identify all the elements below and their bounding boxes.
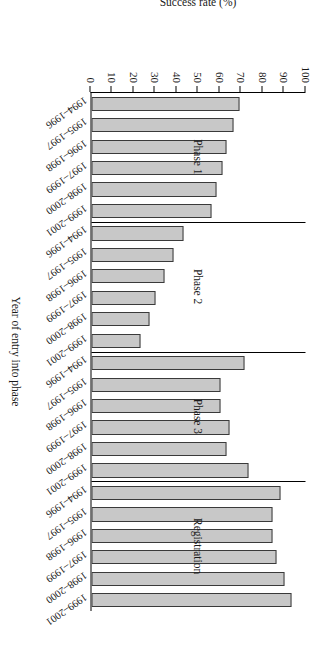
y-axis-tick-label: 0 <box>85 78 96 84</box>
x-axis-tick-label: 1998–2000 <box>12 571 90 585</box>
bar[interactable] <box>91 529 272 543</box>
y-axis-tick-label: 30 <box>149 72 160 83</box>
x-label-group: 1994–19961995–19971996–19981997–19991998… <box>12 352 90 482</box>
bar-group <box>91 93 305 222</box>
bar[interactable] <box>91 463 248 477</box>
x-axis-tick-label: 1994–1996 <box>12 96 90 110</box>
bar[interactable] <box>91 248 173 262</box>
x-axis-tick-label: 1996–1998 <box>12 139 90 153</box>
y-axis-tick-label: 40 <box>171 72 182 83</box>
x-axis-tick-label: 1999–2001 <box>12 593 90 607</box>
y-axis-tick-label: 80 <box>257 72 268 83</box>
bar[interactable] <box>91 486 280 500</box>
x-label-group: 1994–19961995–19971996–19981997–19991998… <box>12 222 90 352</box>
bar[interactable] <box>91 593 291 607</box>
y-axis-tick-label: 50 <box>192 72 203 83</box>
bar-group <box>91 481 305 611</box>
x-axis-tick-label: 1995–1997 <box>12 507 90 521</box>
bar[interactable] <box>91 269 164 283</box>
x-axis-tick-label: 1996–1998 <box>12 398 90 412</box>
x-axis-tick-label: 1995–1997 <box>12 377 90 391</box>
x-axis-tick-label: 1999–2001 <box>12 463 90 477</box>
bar[interactable] <box>91 226 183 240</box>
y-axis: 1009080706050403020100 <box>90 0 305 92</box>
x-axis-tick-label: 1995–1997 <box>12 247 90 261</box>
bar-groups <box>91 93 305 611</box>
x-axis-tick-label: 1994–1996 <box>12 225 90 239</box>
plot-area <box>90 92 305 611</box>
bar[interactable] <box>91 182 216 196</box>
y-axis-tick-label: 20 <box>128 72 139 83</box>
bar-group <box>91 352 305 482</box>
x-axis-tick-label: 1996–1998 <box>12 269 90 283</box>
bar[interactable] <box>91 291 156 305</box>
x-axis-tick-label: 1997–1999 <box>12 420 90 434</box>
y-axis-tick-label: 90 <box>278 72 289 83</box>
x-axis-tick-label: 1997–1999 <box>12 290 90 304</box>
bar[interactable] <box>91 550 276 564</box>
y-axis-title: Success rate (%) <box>90 0 305 12</box>
y-axis-tick-label: 100 <box>300 67 311 84</box>
bar[interactable] <box>91 118 233 132</box>
bar[interactable] <box>91 356 244 370</box>
y-axis-tick-label: 60 <box>214 72 225 83</box>
x-axis-tick-label: 1994–1996 <box>12 355 90 369</box>
x-axis-tick-label: 1998–2000 <box>12 442 90 456</box>
x-axis-labels: 1994–19961995–19971996–19981997–19991998… <box>12 92 90 611</box>
bar-group <box>91 222 305 352</box>
x-label-group: 1994–19961995–19971996–19981997–19991998… <box>12 92 90 222</box>
bar[interactable] <box>91 378 220 392</box>
x-axis-tick-label: 1995–1997 <box>12 117 90 131</box>
bar[interactable] <box>91 420 229 434</box>
bar[interactable] <box>91 334 140 348</box>
bar-chart-figure: 1009080706050403020100 Success rate (%) … <box>0 0 317 646</box>
x-axis-tick-label: 1999–2001 <box>12 204 90 218</box>
y-axis-tick-label: 70 <box>235 72 246 83</box>
bar[interactable] <box>91 204 211 218</box>
x-axis-tick-label: 1997–1999 <box>12 161 90 175</box>
y-axis-tick-label: 10 <box>106 72 117 83</box>
bar[interactable] <box>91 507 272 521</box>
bar[interactable] <box>91 140 226 154</box>
x-axis-tick-label-text: 1999–2001 <box>43 591 88 627</box>
x-axis-tick-label: 1999–2001 <box>12 334 90 348</box>
bar[interactable] <box>91 97 239 111</box>
x-axis-tick-label: 1998–2000 <box>12 312 90 326</box>
x-axis-tick-label: 1994–1996 <box>12 485 90 499</box>
rotated-page-wrapper: 1009080706050403020100 Success rate (%) … <box>0 0 317 646</box>
x-axis-title: Year of entry into phase <box>9 92 21 611</box>
bar[interactable] <box>91 312 149 326</box>
bar[interactable] <box>91 161 222 175</box>
bar[interactable] <box>91 399 220 413</box>
x-axis-tick-label: 1998–2000 <box>12 182 90 196</box>
bar[interactable] <box>91 442 226 456</box>
x-axis-tick-label: 1996–1998 <box>12 528 90 542</box>
x-axis-tick-label: 1997–1999 <box>12 550 90 564</box>
bar[interactable] <box>91 572 285 586</box>
x-label-group: 1994–19961995–19971996–19981997–19991998… <box>12 481 90 611</box>
